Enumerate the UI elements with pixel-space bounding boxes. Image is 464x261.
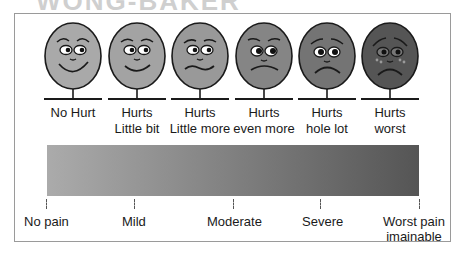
scale-label-severe: Severe [302,214,343,229]
face-label-line1: Hurts [350,105,430,121]
frown-face-icon [233,22,295,102]
scale-label-worst-line1: Worst pain [378,214,450,229]
face-hurts-hole-lot [296,22,358,112]
scale-label-worst-pain: Worst pain imainable [378,214,450,244]
pain-gradient-bar [47,145,419,196]
scale-label-no-pain: No pain [24,214,69,229]
tick-severe [320,199,321,209]
smile-face-icon [106,22,168,102]
sad-face-icon [296,22,358,102]
wavy-mouth-face-icon [169,22,231,102]
face-hurts-little-more [169,22,231,112]
tick-no-pain [46,199,47,209]
tick-mild [134,199,135,209]
face-no-hurt [42,22,104,112]
crying-face-icon [359,22,421,102]
face-label-line2: worst [350,121,430,137]
face-hurts-worst [359,22,421,112]
scale-label-moderate: Moderate [207,214,262,229]
face-hurts-little-bit [106,22,168,112]
tick-worst-pain [419,199,420,209]
scale-label-worst-line2: imainable [378,229,450,244]
face-label-hurts-worst: Hurts worst [350,105,430,137]
big-smile-face-icon [42,22,104,102]
face-hurts-even-more [233,22,295,112]
tick-moderate [233,199,234,209]
scale-label-mild: Mild [122,214,146,229]
